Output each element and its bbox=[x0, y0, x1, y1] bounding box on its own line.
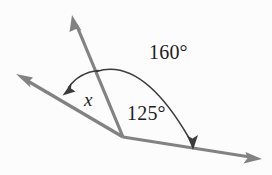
ray-left-arrowhead bbox=[16, 74, 33, 88]
angle-label-x: x bbox=[84, 90, 92, 109]
angle-label-125: 125° bbox=[127, 103, 166, 123]
angle-diagram-figure: 160° 125° x bbox=[0, 0, 272, 175]
angle-arc-x-arrowhead bbox=[63, 83, 76, 96]
ray-upper-left-steep-line bbox=[77, 25, 124, 137]
angle-arc-x bbox=[63, 71, 99, 96]
ray-upper-left-steep bbox=[70, 15, 124, 137]
angle-label-160: 160° bbox=[149, 42, 188, 62]
ray-right-line bbox=[123, 137, 250, 157]
rays-group bbox=[16, 15, 262, 164]
ray-upper-left-steep-arrowhead bbox=[70, 15, 82, 32]
angle-diagram-canvas bbox=[0, 0, 272, 175]
ray-left bbox=[16, 74, 123, 137]
angle-arc-x-path bbox=[69, 71, 99, 88]
ray-left-line bbox=[26, 80, 123, 137]
